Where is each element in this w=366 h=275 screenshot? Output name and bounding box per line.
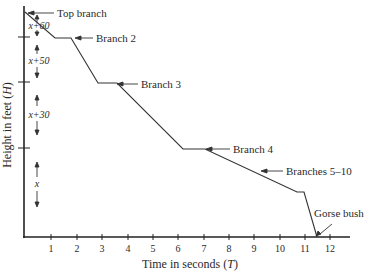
svg-text:8: 8 xyxy=(227,243,232,254)
x-axis-title: Time in seconds (T) xyxy=(142,257,238,271)
svg-text:3: 3 xyxy=(100,243,105,254)
svg-text:12: 12 xyxy=(325,243,335,254)
label-branch-4: Branch 4 xyxy=(233,143,274,155)
svg-text:6: 6 xyxy=(176,243,181,254)
svg-text:11: 11 xyxy=(300,243,310,254)
svg-text:2: 2 xyxy=(75,243,80,254)
svg-text:4: 4 xyxy=(126,243,131,254)
x-tick-labels: 1 2 3 4 5 6 7 8 9 10 11 12 xyxy=(49,243,336,254)
svg-text:10: 10 xyxy=(275,243,285,254)
interval-label-x60: x+60 xyxy=(27,20,49,31)
label-branch-2: Branch 2 xyxy=(96,32,136,44)
fall-path-line xyxy=(25,12,317,237)
label-top-branch: Top branch xyxy=(57,7,107,19)
label-branch-3: Branch 3 xyxy=(141,78,182,90)
interval-label-x: x xyxy=(34,178,40,189)
interval-label-x30: x+30 xyxy=(27,109,49,120)
annotation-arrows xyxy=(28,11,332,236)
svg-text:7: 7 xyxy=(202,243,207,254)
label-branches-5-10: Branches 5–10 xyxy=(286,165,352,177)
label-gorse-bush: Gorse bush xyxy=(314,207,364,219)
svg-text:9: 9 xyxy=(252,243,257,254)
svg-text:5: 5 xyxy=(151,243,156,254)
y-axis-title: Height in feet (H) xyxy=(0,82,14,168)
interval-label-x50: x+50 xyxy=(27,55,49,66)
svg-text:1: 1 xyxy=(49,243,54,254)
fall-diagram: 1 2 3 4 5 6 7 8 9 10 11 12 Time in secon… xyxy=(0,0,366,275)
